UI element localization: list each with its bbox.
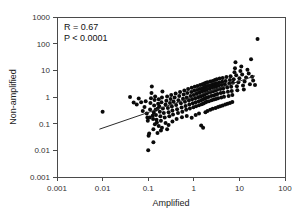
- y-tick-label: 0.01: [34, 146, 50, 155]
- x-tick-label: 0.001: [47, 184, 68, 193]
- data-point: [224, 79, 228, 83]
- data-point: [201, 126, 205, 130]
- data-point: [249, 57, 253, 61]
- data-point: [174, 92, 178, 96]
- data-point: [226, 90, 230, 94]
- data-point: [170, 120, 174, 124]
- data-point: [228, 78, 232, 82]
- data-point: [197, 112, 201, 116]
- data-point: [159, 119, 163, 123]
- data-point: [238, 69, 242, 73]
- data-point: [234, 73, 238, 77]
- data-point: [156, 131, 160, 135]
- chart-canvas: 0.0010.010.1110100 0.0010.010.1110100100…: [0, 0, 302, 221]
- data-point: [227, 94, 231, 98]
- data-point: [230, 93, 234, 97]
- data-point: [148, 101, 152, 105]
- data-point: [180, 106, 184, 110]
- x-axis-ticks: 0.0010.010.1110100: [47, 177, 292, 193]
- data-point: [147, 131, 151, 135]
- y-tick-label: 100: [37, 40, 51, 49]
- data-point: [185, 114, 189, 118]
- data-point: [151, 127, 155, 131]
- x-axis-title: Amplified: [152, 198, 189, 208]
- data-point: [167, 114, 171, 118]
- data-point: [187, 103, 191, 107]
- data-point: [177, 94, 181, 98]
- data-point: [235, 88, 239, 92]
- y-tick-label: 10: [41, 66, 50, 75]
- annotation-correlation: R = 0.67: [64, 22, 98, 32]
- data-point: [141, 109, 145, 113]
- data-point: [186, 87, 190, 91]
- data-point: [221, 76, 225, 80]
- data-point: [190, 116, 194, 120]
- y-axis-ticks: 0.0010.010.11101001000: [30, 13, 57, 182]
- data-point: [128, 95, 132, 99]
- data-point: [101, 110, 105, 114]
- data-point: [143, 105, 147, 109]
- data-point: [232, 77, 236, 81]
- data-point: [137, 96, 141, 100]
- data-point: [152, 104, 156, 108]
- data-point: [150, 84, 154, 88]
- x-tick-label: 100: [278, 184, 292, 193]
- data-point: [165, 94, 169, 98]
- data-point: [184, 108, 188, 112]
- data-point: [165, 127, 169, 131]
- data-point: [237, 76, 241, 80]
- data-point: [229, 74, 233, 78]
- data-point: [158, 114, 162, 118]
- y-tick-label: 0.1: [39, 120, 51, 129]
- data-point: [151, 140, 155, 144]
- data-point: [139, 100, 143, 104]
- y-tick-label: 1: [46, 93, 51, 102]
- data-point: [230, 89, 234, 93]
- data-point: [241, 84, 245, 88]
- data-point: [146, 148, 150, 152]
- data-point: [170, 109, 174, 113]
- data-point: [173, 96, 177, 100]
- data-point: [153, 94, 157, 98]
- data-point: [163, 116, 167, 120]
- data-point: [160, 90, 164, 94]
- data-point: [245, 68, 249, 72]
- data-point: [159, 128, 163, 132]
- data-point: [164, 99, 168, 103]
- data-point: [247, 72, 251, 76]
- data-point: [171, 113, 175, 117]
- data-point: [180, 110, 184, 114]
- data-point: [175, 117, 179, 121]
- data-point: [253, 83, 257, 87]
- data-point: [188, 107, 192, 111]
- y-tick-label: 0.001: [30, 173, 51, 182]
- data-point: [154, 113, 158, 117]
- data-point: [184, 104, 188, 108]
- data-point: [229, 85, 233, 89]
- data-point: [222, 95, 226, 99]
- data-point: [144, 99, 148, 103]
- x-tick-label: 10: [235, 184, 244, 193]
- data-point: [180, 115, 184, 119]
- data-point: [242, 88, 246, 92]
- annotation-pvalue: P < 0.0001: [64, 33, 108, 43]
- data-point: [240, 72, 244, 76]
- data-point: [175, 107, 179, 111]
- y-tick-label: 1000: [32, 13, 50, 22]
- data-point: [167, 110, 171, 114]
- x-tick-label: 0.1: [143, 184, 155, 193]
- x-tick-label: 1: [192, 184, 197, 193]
- data-point: [233, 66, 237, 70]
- data-point: [167, 123, 171, 127]
- data-point: [153, 122, 157, 126]
- data-point: [176, 111, 180, 115]
- data-point: [233, 60, 237, 64]
- data-point: [169, 93, 173, 97]
- data-point: [162, 111, 166, 115]
- data-point: [160, 95, 164, 99]
- data-point: [248, 82, 252, 86]
- data-point: [251, 78, 255, 82]
- y-axis-title: Non-amplified: [8, 69, 18, 125]
- data-point: [149, 91, 153, 95]
- data-point: [153, 98, 157, 102]
